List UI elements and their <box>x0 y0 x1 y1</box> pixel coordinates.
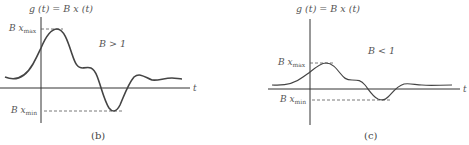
panel-c-max-label-main: B x <box>278 57 293 67</box>
panel-c-y-axis-label: g (t) = B x (t) <box>296 4 360 14</box>
panel-b-x-axis-label: t <box>193 84 197 93</box>
panel-c-max-label: B xmax <box>278 58 305 68</box>
panel-b-y-axis-label: g (t) = B x (t) <box>29 4 93 14</box>
panel-b-caption: (b) <box>91 131 105 141</box>
panel-b-min-label-main: B x <box>11 105 26 115</box>
panel-b-max-label: B xmax <box>9 24 36 34</box>
figure-canvas <box>0 0 469 145</box>
panel-c-min-label: B xmin <box>280 95 306 105</box>
panel-b-curve <box>5 29 182 111</box>
panel-b-max-label-main: B x <box>9 23 24 33</box>
panel-c-condition-label: B < 1 <box>368 46 395 56</box>
panel-c-min-label-sub: min <box>295 98 306 105</box>
panel-c-caption: (c) <box>364 131 377 141</box>
panel-b-max-label-sub: max <box>24 27 37 34</box>
panel-c-min-label-main: B x <box>280 94 295 104</box>
panel-b-min-label-sub: min <box>26 109 37 116</box>
panel-c-x-axis-label: t <box>463 85 467 94</box>
panel-b-condition-label: B > 1 <box>99 39 126 49</box>
panel-c-plot <box>268 19 460 125</box>
panel-c-max-label-sub: max <box>293 61 306 68</box>
panel-b-min-label: B xmin <box>11 106 37 116</box>
